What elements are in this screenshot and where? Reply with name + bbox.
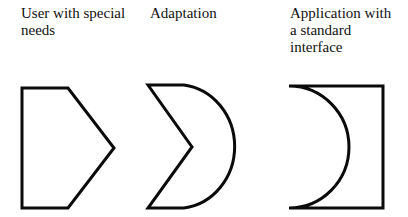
adaptation-shape [148,85,235,208]
application-shape [289,86,383,208]
adaptation-diagram [0,0,408,217]
user-shape [22,88,114,208]
